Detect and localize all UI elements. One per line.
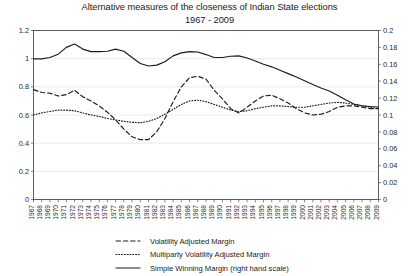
x-axis-tick-label: 1979 bbox=[126, 205, 133, 220]
x-axis-tick-label: 1983 bbox=[159, 205, 166, 220]
x-axis-tick-label: 2007 bbox=[356, 205, 363, 220]
x-axis-labels: 1967196819691970197119721973197419751976… bbox=[28, 205, 380, 220]
series-line bbox=[34, 76, 379, 139]
x-axis-tick-label: 1976 bbox=[101, 205, 108, 220]
x-axis-tick-label: 1991 bbox=[225, 205, 232, 220]
gridlines bbox=[34, 59, 379, 172]
right-axis-tick-label: 0.18 bbox=[383, 43, 397, 52]
x-axis-tick-label: 1978 bbox=[118, 205, 125, 220]
x-axis-tick-label: 1969 bbox=[44, 205, 51, 220]
x-axis-tick-label: 2001 bbox=[307, 205, 314, 220]
x-axis-tick-label: 1989 bbox=[208, 205, 215, 220]
x-axis-tick-label: 1973 bbox=[77, 205, 84, 220]
x-axis-tick-label: 1990 bbox=[216, 205, 223, 220]
x-axis-tick-label: 2009 bbox=[373, 205, 380, 220]
x-axis-tick-label: 1972 bbox=[69, 205, 76, 220]
right-axis-tick-label: 0.16 bbox=[383, 60, 397, 69]
right-axis-tick-label: 0.1 bbox=[383, 111, 393, 120]
x-axis-tick-label: 1967 bbox=[28, 205, 35, 220]
x-axis-tick-label: 2000 bbox=[299, 205, 306, 220]
right-axis-tick-label: 0.08 bbox=[383, 128, 397, 137]
x-axis-tick-label: 1984 bbox=[167, 205, 174, 220]
x-axis-tick-label: 1987 bbox=[192, 205, 199, 220]
x-axis-tick-label: 1993 bbox=[241, 205, 248, 220]
x-axis-tick-label: 2004 bbox=[331, 205, 338, 220]
right-axis-tick-label: 0.06 bbox=[383, 144, 397, 153]
x-axis-tick-label: 1968 bbox=[36, 205, 43, 220]
legend-label: Volatility Adjusted Margin bbox=[150, 237, 234, 246]
left-axis-tick-label: 0.6 bbox=[19, 111, 29, 120]
x-axis-tick-label: 1985 bbox=[175, 205, 182, 220]
x-axis-tick-label: 1982 bbox=[151, 205, 158, 220]
x-axis-tick-label: 1992 bbox=[233, 205, 240, 220]
x-axis-tick-label: 1970 bbox=[52, 205, 59, 220]
x-axis-tick-label: 1986 bbox=[184, 205, 191, 220]
x-axis-tick-label: 2008 bbox=[364, 205, 371, 220]
x-axis-tick-label: 1999 bbox=[290, 205, 297, 220]
legend-label: Simple Winning Margin (right hand scale) bbox=[150, 264, 289, 273]
left-axis-tick-label: 0.2 bbox=[19, 167, 29, 176]
right-axis-labels: 00.020.040.060.080.10.120.140.160.180.2 bbox=[383, 26, 397, 204]
x-axis-tick-label: 2005 bbox=[340, 205, 347, 220]
x-axis-tick-label: 1971 bbox=[60, 205, 67, 220]
left-axis-tick-label: 0.8 bbox=[19, 82, 29, 91]
chart-container: Alternative measures of the closeness of… bbox=[0, 0, 419, 276]
x-axis-tick-label: 2002 bbox=[315, 205, 322, 220]
x-axis-tick-label: 1994 bbox=[249, 205, 256, 220]
left-axis-tick-label: 1.2 bbox=[19, 26, 29, 35]
x-axis-tick-label: 1974 bbox=[85, 205, 92, 220]
x-axis-tick-label: 1995 bbox=[258, 205, 265, 220]
x-axis-tick-label: 1998 bbox=[282, 205, 289, 220]
x-axis-tick-label: 1981 bbox=[143, 205, 150, 220]
x-axis-tick-label: 1997 bbox=[274, 205, 281, 220]
right-axis-tick-label: 0.2 bbox=[383, 26, 393, 35]
x-axis-tick-label: 1988 bbox=[200, 205, 207, 220]
right-axis-tick-label: 0 bbox=[383, 195, 387, 204]
x-axis-tick-label: 1975 bbox=[93, 205, 100, 220]
series-line bbox=[34, 44, 379, 107]
x-axis-tick-label: 1980 bbox=[134, 205, 141, 220]
series-line bbox=[34, 100, 379, 123]
left-axis-tick-label: 0 bbox=[25, 195, 29, 204]
left-axis-tick-label: 0.4 bbox=[19, 139, 29, 148]
left-axis-tick-label: 1 bbox=[25, 54, 29, 63]
x-axis-tick-label: 1996 bbox=[266, 205, 273, 220]
x-axis-tick-label: 1977 bbox=[110, 205, 117, 220]
right-axis-tick-label: 0.12 bbox=[383, 94, 397, 103]
right-axis-tick-label: 0.04 bbox=[383, 161, 397, 170]
chart-plot: 00.20.40.60.811.2 00.020.040.060.080.10.… bbox=[0, 0, 419, 276]
right-axis-tick-label: 0.14 bbox=[383, 77, 397, 86]
left-axis-labels: 00.20.40.60.811.2 bbox=[19, 26, 29, 204]
x-axis-tick-label: 2003 bbox=[323, 205, 330, 220]
legend-label: Multiparty Volatility Adjusted Margin bbox=[150, 250, 269, 259]
chart-legend: Volatility Adjusted MarginMultiparty Vol… bbox=[116, 237, 289, 273]
x-axis-tick-label: 2006 bbox=[348, 205, 355, 220]
right-axis-tick-label: 0.02 bbox=[383, 178, 397, 187]
